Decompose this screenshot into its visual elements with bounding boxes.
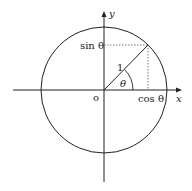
radius-label: 1	[117, 62, 123, 73]
y-axis-label: y	[108, 8, 115, 19]
angle-label: θ	[120, 78, 126, 89]
sin-label: sin θ	[80, 40, 104, 51]
origin-label: o	[93, 92, 99, 103]
cos-label: cos θ	[138, 93, 164, 104]
y-axis-arrow-icon	[102, 11, 107, 17]
x-axis-arrow-icon	[176, 88, 182, 93]
unit-circle-diagram: y x o 1 θ sin θ cos θ	[0, 0, 192, 191]
x-axis-label: x	[176, 93, 182, 104]
